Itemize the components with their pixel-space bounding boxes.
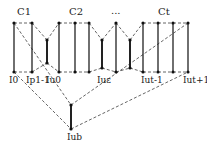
node-label-iu0: Iu0 [46,76,61,85]
node-label-iut: Iut+1 [183,76,207,85]
group-label-ct: Ct [158,7,170,17]
diagram-canvas [0,0,207,148]
node-label-iut1: Iut-1 [141,76,163,85]
group-label-c2: C2 [69,7,83,17]
node-label-i0: I0 [9,76,18,85]
node-label-iue: Iuε [97,76,111,85]
group-label-ellipsis: ... [111,6,121,16]
node-label-iub: Iub [67,133,82,142]
group-label-c1: C1 [17,7,31,17]
